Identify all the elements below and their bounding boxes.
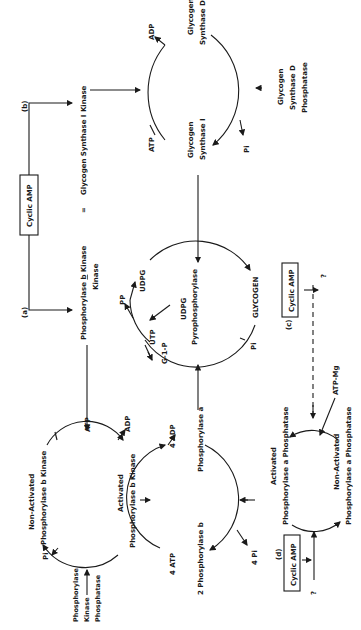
phosphorylase-b-kinase-kinase-label: Phosphorylase b Kinase xyxy=(80,245,88,340)
udpg-label: UDPG xyxy=(139,269,147,292)
glycogen-cycle: UDPG PP UTP G-1-P UDPG Pyrophosphorylase… xyxy=(119,241,260,410)
label-a: (a) xyxy=(21,307,29,318)
cyclic-amp-label: Cyclic AMP xyxy=(26,184,34,227)
phosphatase-arc-bottom xyxy=(292,522,340,532)
glycogen-pi-label: Pi xyxy=(250,342,258,350)
branch-b-arrow xyxy=(29,103,72,175)
non-activated-phosphatase-label-2: Phosphorylase a Phosphatase xyxy=(345,406,353,525)
pyrophosphorylase-label-2: Pyrophosphorylase xyxy=(191,269,199,345)
branch-a-arrow xyxy=(29,235,72,310)
kinase-pi-arrow xyxy=(52,548,58,555)
synthase-atp-label: ATP xyxy=(148,137,156,152)
phosphatase-cycle: Activated Phosphorylase a Phosphatase No… xyxy=(270,365,353,531)
synthase-d-label-1: Glycogen xyxy=(187,0,195,35)
phosphorylase-a-label: Phosphorylase a xyxy=(197,407,205,472)
kinase-adp-label: ADP xyxy=(124,416,132,432)
cyclic-amp-c-group: Cyclic AMP (c) ? xyxy=(282,263,328,418)
label-d: (d) xyxy=(275,549,283,560)
synthase-cycle: ADP ATP Glycogen Synthase D Glycogen Syn… xyxy=(148,0,309,262)
g1p-label: G-1-P xyxy=(161,342,169,364)
d-question-mark: ? xyxy=(310,591,318,595)
synthase-phosphatase-label-1: Glycogen xyxy=(277,69,285,105)
glycogen-metabolism-diagram: Cyclic AMP (b) (a) Glycogen Synthase I K… xyxy=(0,0,361,630)
non-activated-phosphatase-label-1: Non-Activated xyxy=(333,434,341,490)
utp-input-line xyxy=(148,352,152,360)
c-question-mark: ? xyxy=(320,274,328,278)
non-activated-kinase-label-1: Non-Activated xyxy=(28,474,36,530)
four-pi-label: 4 Pi xyxy=(251,550,259,565)
synthase-pi-arrow xyxy=(240,120,243,135)
kinase-phosphatase-label-1: Phosphorylase xyxy=(72,568,80,622)
glycogen-synthase-i-kinase-label: Glycogen Synthase I Kinase xyxy=(80,85,88,195)
non-activated-kinase-label-2: Phosphorylase b Kinase xyxy=(40,450,48,545)
synthase-phosphatase-label-2: Synthase D xyxy=(289,65,297,110)
phosphorylase-pi-arrow xyxy=(237,530,247,545)
udpg-arc xyxy=(130,300,150,342)
phosphorylase-arc-right xyxy=(205,445,239,550)
kinase-arc-bottom xyxy=(43,545,118,568)
synthase-i-label-1: Glycogen xyxy=(187,122,195,158)
glycogen-arc-top xyxy=(150,241,250,270)
cyclic-amp-d-group: Cyclic AMP (d) ? xyxy=(275,532,318,595)
synthase-arc-right xyxy=(211,35,239,145)
synthase-pi-label: Pi xyxy=(243,145,251,153)
utp-label: UTP xyxy=(149,329,157,345)
label-b: (b) xyxy=(21,101,29,112)
kinase-pi-label: Pi xyxy=(42,552,50,560)
atp-input xyxy=(150,125,155,135)
activated-phosphatase-label-1: Activated xyxy=(270,447,278,485)
synthase-i-label-2: Synthase I xyxy=(199,118,207,160)
pyrophosphorylase-label-1: UDPG xyxy=(180,297,188,320)
kinase-phosphatase-label-3: Phosphatase xyxy=(94,574,102,622)
cyclic-amp-ab-group: Cyclic AMP (b) (a) xyxy=(20,101,72,318)
synthase-adp-label: ADP xyxy=(148,24,156,40)
kinase-atp-label: ATP xyxy=(84,417,92,432)
glycogen-label: GLYCOGEN xyxy=(252,276,260,318)
label-c: (c) xyxy=(285,319,293,330)
cyclic-amp-c-label: Cyclic AMP xyxy=(288,269,296,312)
atp-mg-label: ATP-Mg xyxy=(332,365,340,395)
synthase-d-label-2: Synthase D xyxy=(199,0,207,45)
phosphatase-arc-top xyxy=(290,430,338,440)
four-adp-label: 4 ADP xyxy=(169,424,177,448)
equals-sign: = xyxy=(80,207,88,213)
kinase-phosphatase-label-2: Kinase xyxy=(83,597,91,622)
phosphorylase-cycle: 4 ADP 4 ATP 2 Phosphorylase b Phosphoryl… xyxy=(127,407,259,595)
kinase-cycle: ATP ADP Pi Non-Activated Phosphorylase b… xyxy=(28,416,150,622)
kinase-second-line: Kinase xyxy=(92,263,100,290)
kinase-labels: Glycogen Synthase I Kinase = Phosphoryla… xyxy=(80,85,140,430)
activated-kinase-label-1: Activated xyxy=(117,474,125,512)
adp-release-arrow xyxy=(155,37,165,45)
pp-release-arrow xyxy=(125,304,133,318)
glycogen-pi-tick xyxy=(240,338,245,340)
four-atp-label: 4 ATP xyxy=(169,553,177,575)
udpg-output-arrow xyxy=(130,282,135,300)
phosphorylase-b-label: 2 Phosphorylase b xyxy=(197,522,205,595)
cyclic-amp-d-label: Cyclic AMP xyxy=(290,543,298,586)
activated-phosphatase-label-2: Phosphorylase a Phosphatase xyxy=(282,406,290,525)
pp-label: PP xyxy=(119,295,127,305)
atp-mg-arrow xyxy=(320,398,335,435)
pyrophosphorylase-arrow xyxy=(150,305,170,320)
synthase-phosphatase-label-3: Phosphatase xyxy=(301,62,309,113)
